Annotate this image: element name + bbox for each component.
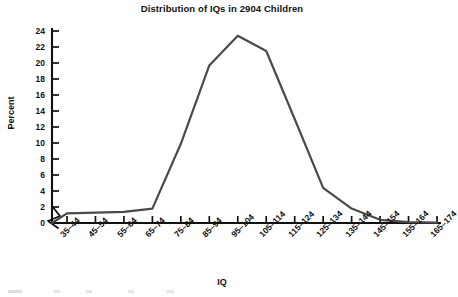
axis-break-icon bbox=[48, 206, 60, 228]
y-tick-label: 12 bbox=[23, 122, 45, 132]
y-tick-label: 24 bbox=[23, 26, 45, 36]
axis-lines bbox=[52, 28, 441, 223]
y-tick-label: 14 bbox=[23, 106, 45, 116]
y-tick-label: 2 bbox=[23, 202, 45, 212]
data-series-line bbox=[52, 36, 437, 223]
y-tick-label: 8 bbox=[23, 154, 45, 164]
y-tick-label: 22 bbox=[23, 42, 45, 52]
y-tick-label: 6 bbox=[23, 170, 45, 180]
y-tick-label: 10 bbox=[23, 138, 45, 148]
y-tick-label: 4 bbox=[23, 186, 45, 196]
y-tick-label: 18 bbox=[23, 74, 45, 84]
y-tick-label: 0 bbox=[23, 218, 45, 228]
y-tick-label: 16 bbox=[23, 90, 45, 100]
y-tick-label: 20 bbox=[23, 58, 45, 68]
page-text-fragment bbox=[8, 290, 188, 293]
